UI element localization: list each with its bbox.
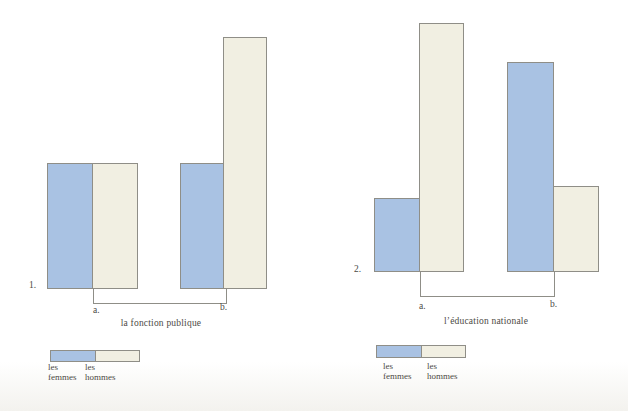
chart-2-item-number: 2. (354, 264, 361, 274)
chart-1-bracket-baseline (93, 303, 227, 304)
chart-2-title: l’éducation nationale (416, 316, 556, 326)
chart-2-bracket-left-tick (420, 272, 421, 296)
chart-1-group-a-hommes-bar (92, 163, 138, 289)
chart-2-category-b-label: b. (550, 299, 557, 309)
legend-2-hommes-swatch (422, 346, 466, 357)
chart-1-title: la fonction publique (91, 318, 231, 328)
chart-2-bracket-baseline (420, 296, 555, 297)
legend-1-color-bar (50, 350, 140, 362)
legend-2-femmes-label: les femmes (383, 361, 421, 382)
chart-2-group-a-femmes-bar (374, 198, 420, 272)
legend-2-femmes-swatch (377, 346, 422, 357)
legend-2-color-bar (376, 345, 466, 358)
chart-1-group-b-femmes-bar (180, 163, 224, 289)
legend-1-femmes-label: les femmes (48, 362, 86, 383)
scanned-textbook-page: 1. a. b. la fonction publique 2. a. b. l… (0, 0, 628, 411)
chart-2-category-a-label: a. (419, 301, 426, 311)
chart-1-item-number: 1. (29, 280, 36, 290)
chart-1-category-b-label: b. (220, 302, 227, 312)
chart-2-group-b-femmes-bar (507, 62, 554, 272)
legend-1-hommes-swatch (96, 351, 140, 361)
legend-1-femmes-swatch (51, 351, 96, 361)
chart-1-bracket-left-tick (93, 289, 94, 303)
chart-2-group-a-hommes-bar (419, 23, 464, 272)
legend-2-hommes-label: les hommes (427, 361, 465, 382)
legend-1-hommes-label: les hommes (85, 362, 123, 383)
chart-1-bracket-right-tick (226, 288, 227, 303)
chart-1-category-a-label: a. (93, 305, 100, 315)
chart-2-bracket-right-tick (554, 272, 555, 296)
chart-1-group-b-hommes-bar (223, 37, 267, 289)
chart-2-group-b-hommes-bar (553, 186, 599, 272)
chart-1-group-a-femmes-bar (47, 163, 93, 289)
